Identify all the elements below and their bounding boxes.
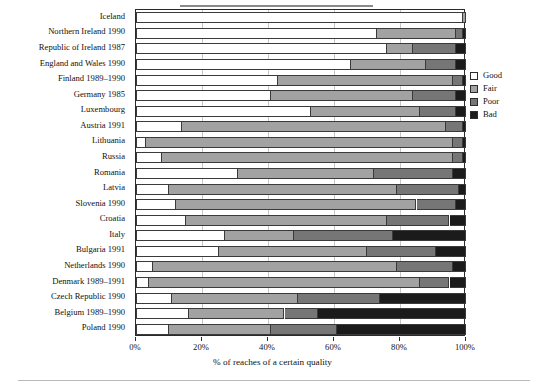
x-tick-mark bbox=[267, 337, 268, 341]
bar-segment-fair bbox=[278, 75, 453, 86]
bar-segment-fair bbox=[189, 308, 285, 319]
bar-segment-poor bbox=[413, 90, 456, 101]
category-label: Slovenia 1990 bbox=[76, 199, 125, 208]
bar-row bbox=[136, 230, 464, 241]
bar-segment-fair bbox=[377, 28, 456, 39]
bar-segment-fair bbox=[146, 137, 453, 148]
bar-segment-bad bbox=[456, 43, 466, 54]
bar-segment-poor bbox=[446, 121, 463, 132]
x-axis-title: % of reaches of a certain quality bbox=[0, 357, 545, 367]
x-tick-mark bbox=[399, 337, 400, 341]
x-tick-label: 40% bbox=[247, 342, 287, 352]
category-label: Finland 1989–1990 bbox=[58, 74, 125, 83]
bar-segment-good bbox=[136, 261, 153, 272]
category-label: Northern Ireland 1990 bbox=[48, 27, 125, 36]
bar-segment-poor bbox=[397, 261, 453, 272]
bottom-divider-rule bbox=[18, 380, 530, 381]
bar-segment-good bbox=[136, 293, 172, 304]
bar-segment-fair bbox=[463, 12, 466, 23]
bar-row bbox=[136, 277, 464, 288]
bar-segment-fair bbox=[169, 324, 271, 335]
bar-segment-bad bbox=[463, 75, 466, 86]
category-axis-labels: IcelandNorthern Ireland 1990Republic of … bbox=[0, 9, 129, 336]
bar-segment-good bbox=[136, 246, 219, 257]
legend-label: Good bbox=[483, 70, 502, 81]
bar-segment-poor bbox=[374, 168, 453, 179]
bar-segment-poor bbox=[298, 293, 381, 304]
category-label: Germany 1985 bbox=[74, 90, 125, 99]
legend-label: Poor bbox=[483, 96, 499, 107]
x-tick-mark bbox=[333, 337, 334, 341]
bar-row bbox=[136, 324, 464, 335]
bar-segment-fair bbox=[225, 230, 294, 241]
bar-segment-bad bbox=[380, 293, 466, 304]
bar-segment-good bbox=[136, 28, 377, 39]
bar-row bbox=[136, 75, 464, 86]
bar-segment-bad bbox=[453, 261, 466, 272]
bar-segment-poor bbox=[420, 106, 456, 117]
bar-row bbox=[136, 59, 464, 70]
bar-segment-fair bbox=[172, 293, 297, 304]
legend-swatch-good-icon bbox=[470, 72, 478, 80]
bar-segment-poor bbox=[417, 199, 457, 210]
x-tick-mark bbox=[201, 337, 202, 341]
bar-segment-good bbox=[136, 308, 189, 319]
bar-segment-good bbox=[136, 90, 271, 101]
bar-segment-good bbox=[136, 137, 146, 148]
bar-segment-bad bbox=[456, 90, 466, 101]
river-quality-stacked-bar-figure: IcelandNorthern Ireland 1990Republic of … bbox=[0, 0, 545, 389]
x-tick-mark bbox=[465, 337, 466, 341]
bar-row bbox=[136, 293, 464, 304]
legend-swatch-poor-icon bbox=[470, 98, 478, 106]
bar-segment-poor bbox=[271, 324, 337, 335]
bar-segment-good bbox=[136, 277, 149, 288]
bar-segment-fair bbox=[351, 59, 427, 70]
bar-segment-bad bbox=[456, 199, 466, 210]
bar-segment-good bbox=[136, 12, 463, 23]
bar-segment-bad bbox=[436, 246, 466, 257]
category-label: Austria 1991 bbox=[80, 121, 125, 130]
bar-row bbox=[136, 184, 464, 195]
bar-segment-good bbox=[136, 324, 169, 335]
bar-segment-fair bbox=[149, 277, 420, 288]
bar-segment-fair bbox=[169, 184, 397, 195]
bar-segment-bad bbox=[459, 184, 466, 195]
bar-segment-good bbox=[136, 184, 169, 195]
bar-segment-bad bbox=[393, 230, 466, 241]
category-label: Netherlands 1990 bbox=[64, 261, 125, 270]
category-label: Luxembourg bbox=[81, 105, 125, 114]
bar-row bbox=[136, 28, 464, 39]
bar-segment-bad bbox=[450, 215, 467, 226]
bar-segment-bad bbox=[463, 121, 466, 132]
category-label: Republic of Ireland 1987 bbox=[39, 43, 125, 52]
bar-segment-poor bbox=[294, 230, 393, 241]
bar-segment-bad bbox=[450, 277, 467, 288]
category-label: England and Wales 1990 bbox=[40, 59, 125, 68]
category-label: Latvia bbox=[103, 183, 125, 192]
legend-swatch-fair-icon bbox=[470, 85, 478, 93]
bar-segment-poor bbox=[387, 215, 450, 226]
bar-segment-fair bbox=[182, 121, 446, 132]
bar-segment-poor bbox=[453, 75, 463, 86]
bar-row bbox=[136, 106, 464, 117]
bar-row bbox=[136, 12, 464, 23]
x-tick-mark bbox=[135, 337, 136, 341]
bar-segment-bad bbox=[337, 324, 466, 335]
bar-segment-poor bbox=[420, 277, 450, 288]
bar-segment-fair bbox=[271, 90, 413, 101]
legend-swatch-bad-icon bbox=[470, 111, 478, 119]
bar-segment-good bbox=[136, 121, 182, 132]
category-label: Iceland bbox=[100, 12, 125, 21]
bar-row bbox=[136, 152, 464, 163]
bar-segment-bad bbox=[456, 106, 466, 117]
bar-segment-good bbox=[136, 106, 311, 117]
bar-segment-good bbox=[136, 168, 238, 179]
bar-row bbox=[136, 261, 464, 272]
category-label: Russia bbox=[102, 152, 125, 161]
bar-segment-bad bbox=[453, 168, 466, 179]
bar-row bbox=[136, 308, 464, 319]
bar-row bbox=[136, 90, 464, 101]
bar-segment-poor bbox=[426, 59, 456, 70]
bar-segment-bad bbox=[318, 308, 467, 319]
plot-area bbox=[135, 9, 465, 336]
